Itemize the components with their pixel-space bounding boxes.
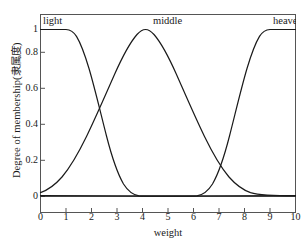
curve-label-heavy: heave — [273, 16, 296, 27]
plot-frame — [41, 15, 296, 213]
curve-label-light: light — [43, 16, 62, 27]
x-axis-tick-labels: 0 1 2 3 4 5 6 7 8 9 10 — [0, 212, 307, 228]
plot-area — [0, 0, 307, 246]
x-axis-title: weight — [40, 228, 296, 239]
membership-function-chart: Degree of membership(隶属度) 0 0.2 0.4 0.6 … — [0, 0, 307, 246]
curve-label-middle: middle — [153, 16, 182, 27]
x-tick-10: 10 — [281, 212, 308, 222]
